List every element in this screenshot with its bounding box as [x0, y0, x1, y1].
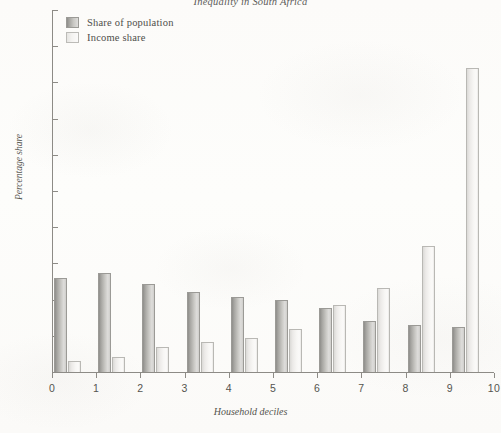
chart-title: Inequality in South Africa [0, 0, 501, 7]
bar-population-decile-6 [319, 308, 332, 372]
bar-chart: Inequality in South Africa 0510152025303… [0, 0, 501, 433]
bar-income-decile-5 [289, 329, 302, 372]
bar-income-decile-4 [245, 338, 258, 372]
bar-income-decile-9 [466, 68, 479, 372]
x-tick-label-4: 4 [216, 382, 242, 394]
y-tick-20 [53, 227, 58, 228]
bar-income-decile-6 [333, 305, 346, 372]
bar-population-decile-7 [363, 321, 376, 372]
y-tick-50 [53, 10, 58, 11]
x-tick-label-5: 5 [260, 382, 286, 394]
legend-item-income-share: Income share [66, 32, 174, 43]
legend-label-population: Share of population [87, 17, 174, 28]
bar-population-decile-8 [408, 325, 421, 372]
x-tick-9 [450, 373, 451, 378]
x-tick-label-0: 0 [39, 382, 65, 394]
x-tick-2 [140, 373, 141, 378]
y-tick-30 [53, 155, 58, 156]
x-tick-label-1: 1 [83, 382, 109, 394]
legend-label-income: Income share [87, 32, 146, 43]
chart-legend: Share of population Income share [66, 17, 174, 43]
x-tick-label-9: 9 [437, 382, 463, 394]
x-tick-7 [361, 373, 362, 378]
y-tick-35 [53, 119, 58, 120]
bar-income-decile-3 [201, 342, 214, 372]
y-tick-15 [53, 263, 58, 264]
bar-population-decile-9 [452, 327, 465, 372]
bar-population-decile-0 [54, 278, 67, 372]
x-tick-8 [406, 373, 407, 378]
x-tick-label-8: 8 [393, 382, 419, 394]
x-tick-0 [52, 373, 53, 378]
bar-population-decile-5 [275, 300, 288, 372]
y-tick-0 [53, 372, 58, 373]
x-axis-title: Household deciles [0, 406, 501, 417]
x-tick-label-3: 3 [172, 382, 198, 394]
legend-item-share-of-population: Share of population [66, 17, 174, 28]
x-tick-6 [317, 373, 318, 378]
legend-swatch-icon-income [66, 32, 79, 43]
bar-income-decile-2 [156, 347, 169, 372]
x-tick-4 [229, 373, 230, 378]
bar-population-decile-3 [187, 292, 200, 372]
x-tick-label-6: 6 [304, 382, 330, 394]
bar-population-decile-2 [142, 284, 155, 372]
x-tick-3 [185, 373, 186, 378]
y-tick-25 [53, 191, 58, 192]
y-tick-40 [53, 82, 58, 83]
bar-population-decile-4 [231, 297, 244, 372]
bar-income-decile-8 [422, 246, 435, 372]
x-tick-label-10: 10 [481, 382, 501, 394]
x-tick-label-2: 2 [127, 382, 153, 394]
bar-income-decile-0 [68, 361, 81, 372]
x-tick-1 [96, 373, 97, 378]
x-tick-10 [494, 373, 495, 378]
x-tick-label-7: 7 [348, 382, 374, 394]
bar-income-decile-1 [112, 357, 125, 372]
bar-population-decile-1 [98, 273, 111, 372]
x-tick-5 [273, 373, 274, 378]
bar-income-decile-7 [377, 288, 390, 372]
legend-swatch-icon-population [66, 17, 79, 28]
y-axis-title: Percentage share [14, 107, 24, 227]
y-tick-45 [53, 46, 58, 47]
